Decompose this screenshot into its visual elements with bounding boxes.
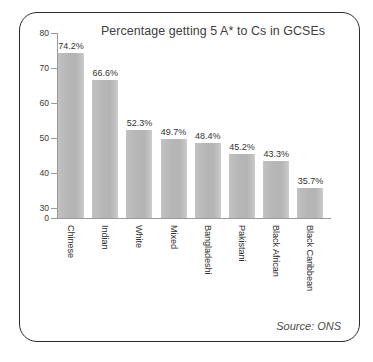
y-tick-mark bbox=[51, 208, 58, 209]
bar-value-label: 35.7% bbox=[285, 176, 335, 186]
bar-column: 43.3% bbox=[263, 33, 289, 218]
y-tick-mark bbox=[51, 218, 58, 219]
category-label: Chinese bbox=[58, 223, 84, 313]
category-label-text: Mixed bbox=[169, 225, 179, 249]
category-label: Indian bbox=[92, 223, 118, 313]
category-label-text: Black Caribbean bbox=[305, 225, 315, 291]
bar-column: 74.2% bbox=[58, 33, 84, 218]
y-tick-mark bbox=[51, 33, 58, 34]
source-note: Source: ONS bbox=[276, 320, 341, 332]
bar bbox=[58, 53, 84, 218]
category-label: Black Caribbean bbox=[297, 223, 323, 313]
y-tick-mark bbox=[51, 103, 58, 104]
bar-column: 52.3% bbox=[126, 33, 152, 218]
bar bbox=[126, 130, 152, 218]
bar-value-label: 43.3% bbox=[251, 149, 301, 159]
bar-value-label: 66.6% bbox=[80, 68, 130, 78]
category-label: Bangladeshi bbox=[195, 223, 221, 313]
bar-series: 74.2%66.6%52.3%49.7%48.4%45.2%43.3%35.7% bbox=[58, 33, 330, 218]
bar bbox=[297, 188, 323, 218]
bar bbox=[263, 161, 289, 218]
bar-column: 48.4% bbox=[195, 33, 221, 218]
y-tick-label: 50 bbox=[0, 133, 49, 143]
y-tick-label: 60 bbox=[0, 98, 49, 108]
bar-column: 35.7% bbox=[297, 33, 323, 218]
y-tick-label: 70 bbox=[0, 63, 49, 73]
category-label-text: Chinese bbox=[66, 225, 76, 258]
bar bbox=[229, 154, 255, 218]
bar-column: 49.7% bbox=[161, 33, 187, 218]
x-axis-category-labels: ChineseIndianWhiteMixedBangladeshiPakist… bbox=[58, 223, 330, 315]
x-axis-line bbox=[57, 218, 331, 219]
category-label: Black African bbox=[263, 223, 289, 313]
category-label-text: Black African bbox=[271, 225, 281, 277]
chart-figure: Percentage getting 5 A* to Cs in GCSEs 8… bbox=[0, 0, 373, 362]
y-tick-label: 80 bbox=[0, 28, 49, 38]
category-label: White bbox=[126, 223, 152, 313]
category-label: Mixed bbox=[161, 223, 187, 313]
y-tick-label: 40 bbox=[0, 168, 49, 178]
y-tick-label: 30 bbox=[0, 203, 49, 213]
bar-value-label: 48.4% bbox=[183, 131, 233, 141]
bar-value-label: 74.2% bbox=[46, 41, 96, 51]
bar bbox=[195, 143, 221, 218]
category-label: Pakistani bbox=[229, 223, 255, 313]
bar-column: 45.2% bbox=[229, 33, 255, 218]
bar bbox=[92, 80, 118, 218]
category-label-text: Bangladeshi bbox=[203, 225, 213, 274]
bar bbox=[161, 139, 187, 218]
y-tick-mark bbox=[51, 138, 58, 139]
category-label-text: Indian bbox=[100, 225, 110, 249]
y-tick-mark bbox=[51, 173, 58, 174]
y-tick-label: 0 bbox=[0, 213, 49, 223]
category-label-text: Pakistani bbox=[237, 225, 247, 261]
category-label-text: White bbox=[134, 225, 144, 248]
y-tick-mark bbox=[51, 68, 58, 69]
